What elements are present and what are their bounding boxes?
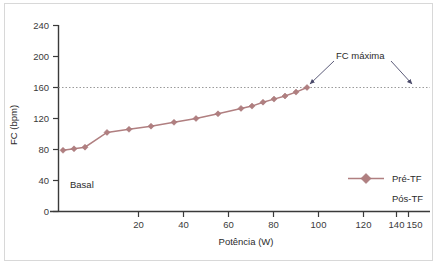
x-tick-label-120: 120	[356, 219, 372, 230]
basal-annotation-label: Basal	[70, 179, 94, 190]
x-tick-label-100: 100	[311, 219, 327, 230]
legend-marker-pre-tf	[361, 174, 371, 184]
y-tick-label-120: 120	[33, 113, 49, 124]
fc-maxima-arrow-left	[310, 61, 334, 84]
legend-label-pos-tf[interactable]: Pós-TF	[392, 193, 423, 204]
fc-maxima-arrow-right	[391, 61, 412, 84]
legend-label-pre-tf[interactable]: Pré-TF	[392, 173, 422, 184]
chart-figure: 240 200 160 120 80 40 0 20 40 60 80 100 …	[0, 0, 438, 267]
x-tick-label-40: 40	[178, 219, 189, 230]
x-axis-ticks	[139, 212, 409, 218]
series-markers-pre-tf	[60, 85, 310, 154]
y-tick-label-200: 200	[33, 51, 49, 62]
x-tick-label-150: 150	[407, 219, 423, 230]
y-axis-ticks	[53, 26, 59, 212]
fc-maxima-annotation-label: FC máxima	[336, 50, 385, 61]
x-tick-label-20: 20	[133, 219, 144, 230]
legend: Pré-TF Pós-TF	[348, 173, 423, 204]
x-tick-label-60: 60	[223, 219, 234, 230]
y-tick-label-40: 40	[38, 175, 49, 186]
y-tick-label-160: 160	[33, 82, 49, 93]
x-axis-title: Potência (W)	[219, 236, 274, 247]
x-tick-label-80: 80	[268, 219, 279, 230]
series-line-pre-tf	[63, 88, 307, 151]
x-tick-label-140: 140	[389, 219, 405, 230]
y-axis-title: FC (bpm)	[8, 105, 19, 145]
y-tick-label-80: 80	[38, 144, 49, 155]
line-chart: 240 200 160 120 80 40 0 20 40 60 80 100 …	[0, 0, 438, 267]
y-tick-label-240: 240	[33, 20, 49, 31]
y-tick-label-0: 0	[44, 206, 49, 217]
